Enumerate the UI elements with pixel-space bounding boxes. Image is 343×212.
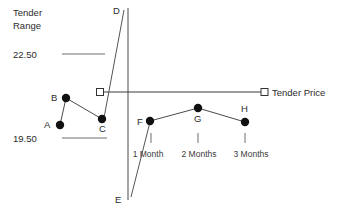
- data-point-label-g: G: [194, 113, 201, 124]
- data-point-label-d: D: [113, 5, 120, 16]
- tick-label-2-months: 2 Months: [182, 149, 217, 159]
- tick-label-1-month: 1 Month: [133, 149, 164, 159]
- tender-range-label-line1: Tender: [13, 7, 42, 18]
- data-point-a: [56, 121, 64, 129]
- tender-spike-lower-segment: [131, 122, 150, 197]
- data-point-label-b: B: [51, 92, 57, 103]
- tick-label-3-months: 3 Months: [234, 149, 269, 159]
- data-point-label-c: C: [99, 123, 106, 134]
- data-point-label-f: F: [137, 116, 143, 127]
- data-point-label-a: A: [44, 119, 51, 130]
- tender-spike-upper-segment: [104, 10, 124, 118]
- chart-canvas: Tender Range 22.50 19.50 Tender Price A …: [0, 0, 343, 212]
- tender-price-marker-left: [97, 89, 104, 96]
- data-point-g: [194, 104, 202, 112]
- lower-range-value-label: 19.50: [13, 133, 37, 144]
- upper-range-value-label: 22.50: [13, 49, 37, 60]
- data-point-h: [241, 118, 249, 126]
- tender-price-chart: Tender Range 22.50 19.50 Tender Price A …: [0, 0, 343, 212]
- data-point-label-e: E: [115, 194, 121, 205]
- data-point-f: [146, 117, 154, 125]
- data-point-c: [98, 115, 106, 123]
- data-point-label-h: H: [241, 103, 248, 114]
- tender-range-label-line2: Range: [13, 20, 41, 31]
- tender-price-label: Tender Price: [272, 87, 325, 98]
- tender-price-marker-right: [261, 89, 268, 96]
- data-point-b: [62, 94, 70, 102]
